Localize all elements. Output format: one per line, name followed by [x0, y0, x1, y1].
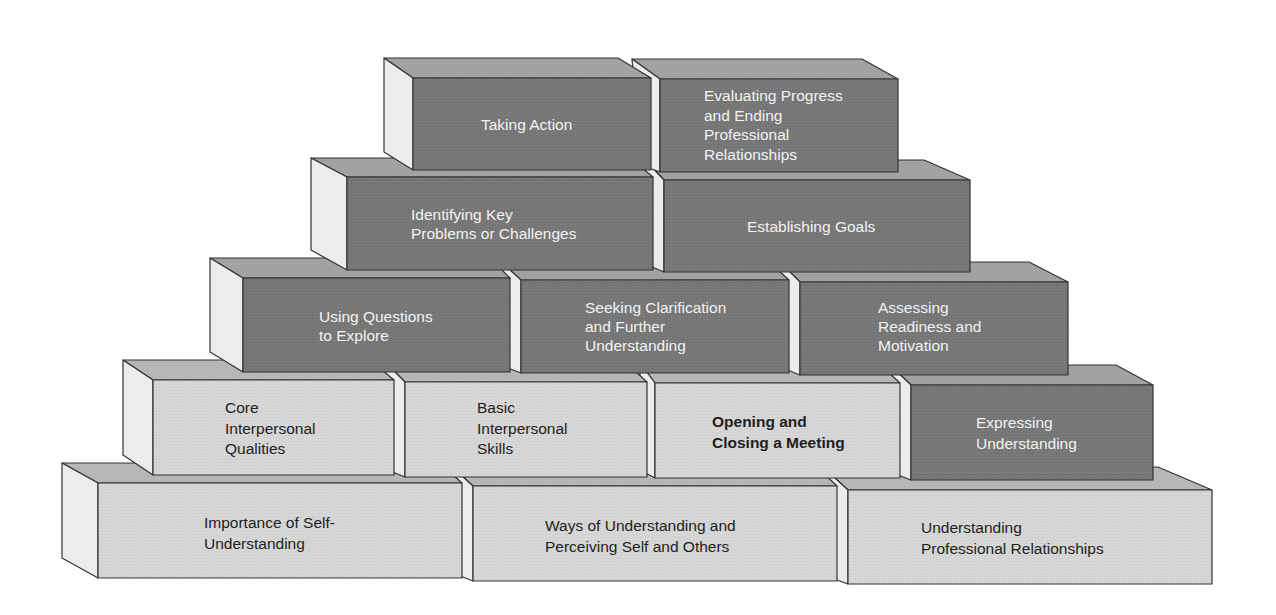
block-taking-action — [384, 58, 651, 170]
label-core-interpersonal-qualities: Core Interpersonal Qualities — [225, 398, 315, 460]
label-ways-of-understanding: Ways of Understanding and Perceiving Sel… — [545, 515, 736, 557]
block-establishing-goals — [645, 160, 970, 272]
label-importance-self-understanding: Importance of Self- Understanding — [204, 512, 335, 554]
label-evaluating-progress: Evaluating Progress and Ending Professio… — [704, 86, 843, 164]
pyramid-diagram: Taking Action Evaluating Progress and En… — [0, 0, 1276, 615]
label-identifying-key-problems: Identifying Key Problems or Challenges — [411, 205, 576, 243]
label-basic-interpersonal-skills: Basic Interpersonal Skills — [477, 398, 567, 460]
label-using-questions: Using Questions to Explore — [319, 307, 433, 345]
label-seeking-clarification: Seeking Clarification and Further Unders… — [585, 298, 726, 355]
label-establishing-goals: Establishing Goals — [747, 217, 875, 236]
label-expressing-understanding: Expressing Understanding — [976, 413, 1077, 454]
label-assessing-readiness: Assessing Readiness and Motivation — [878, 298, 981, 355]
label-opening-closing-meeting: Opening and Closing a Meeting — [712, 411, 845, 453]
label-taking-action: Taking Action — [481, 115, 572, 134]
label-understanding-professional-relationships: Understanding Professional Relationships — [921, 517, 1104, 559]
